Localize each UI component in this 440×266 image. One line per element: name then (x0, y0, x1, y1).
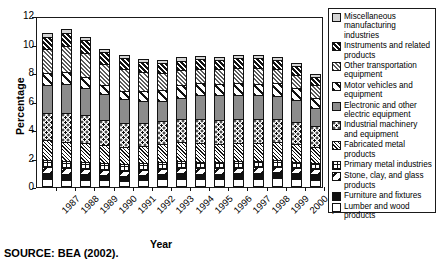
bar-segment (310, 85, 321, 98)
bar-1994[interactable] (176, 16, 187, 187)
bar-segment (195, 119, 206, 143)
bar-1989[interactable] (80, 16, 91, 187)
bar-segment (310, 108, 321, 127)
bar-segment (291, 100, 302, 123)
bar-segment (42, 160, 53, 168)
legend-item[interactable]: Lumber and wood products (332, 202, 433, 221)
bar-segment (61, 33, 72, 47)
bar-segment (80, 37, 91, 41)
legend-item-label: Industrial machinery and equipment (344, 120, 433, 139)
bar-1987[interactable] (42, 16, 53, 187)
legend-item[interactable]: Furniture and fixtures (332, 191, 433, 201)
bar-segment (119, 181, 130, 187)
x-tick-mark (152, 187, 153, 191)
x-tick-label: 2000 (307, 193, 330, 216)
legend-item[interactable]: Industrial machinery and equipment (332, 120, 433, 139)
legend-swatch-icon (332, 102, 341, 111)
bar-segment (80, 162, 91, 169)
bar-segment (157, 162, 168, 169)
bar-segment (99, 94, 110, 120)
bar-segment (157, 73, 168, 90)
bar-segment (195, 174, 206, 180)
bar-1988[interactable] (61, 16, 72, 187)
bar-1998[interactable] (253, 16, 264, 187)
legend-item[interactable]: Instruments and related products (332, 41, 433, 60)
y-tick-mark (32, 160, 36, 161)
bar-1997[interactable] (233, 16, 244, 187)
legend-swatch-icon (332, 62, 341, 71)
bar-segment (138, 91, 149, 101)
bar-2001[interactable] (310, 16, 321, 187)
x-tick-label: 1996 (231, 193, 254, 216)
y-tick-label: 0 (12, 182, 34, 192)
bar-segment (99, 49, 110, 52)
bar-segment (272, 142, 283, 160)
x-axis-label: Year (150, 238, 172, 250)
bar-segment (310, 174, 321, 179)
legend-item[interactable]: Primary metal industries (332, 160, 433, 170)
bar-segment (99, 52, 110, 64)
bar-segment (272, 96, 283, 120)
y-tick-mark (32, 188, 36, 189)
bar-segment (253, 55, 264, 58)
legend-swatch-icon (332, 203, 341, 212)
bar-1992[interactable] (138, 16, 149, 187)
bar-segment (138, 146, 149, 163)
legend-item[interactable]: Miscellaneous manufacturing industries (332, 12, 433, 40)
bar-segment (253, 173, 264, 179)
bar-1993[interactable] (157, 16, 168, 187)
legend-item[interactable]: Electronic and other electric equipment (332, 101, 433, 120)
bar-1990[interactable] (99, 16, 110, 187)
legend-item-label: Electronic and other electric equipment (344, 101, 433, 120)
legend-item[interactable]: Motor vehicles and equipment (332, 81, 433, 100)
bar-segment (291, 122, 302, 144)
legend-item[interactable]: Other transportation equipment (332, 61, 433, 80)
bar-1999[interactable] (272, 16, 283, 187)
bar-segment (233, 119, 244, 143)
bar-segment (310, 180, 321, 187)
bar-segment (310, 74, 321, 77)
bar-segment (157, 174, 168, 179)
bar-segment (61, 161, 72, 169)
bar-segment (119, 91, 130, 100)
bar-segment (61, 46, 72, 72)
x-tick-label: 1993 (174, 193, 197, 216)
bar-segment (272, 178, 283, 187)
legend-item-label: Stone, clay, and glass products (344, 171, 433, 190)
bar-segment (61, 72, 72, 84)
y-tick-mark (32, 103, 36, 104)
bar-segment (99, 120, 110, 146)
bar-segment (138, 170, 149, 175)
bar-segment (61, 113, 72, 142)
bar-segment (61, 29, 72, 33)
bar-segment (214, 57, 225, 60)
x-tick-label: 1991 (135, 193, 158, 216)
bar-1991[interactable] (119, 16, 130, 187)
x-tick-label: 1988 (78, 193, 101, 216)
x-tick-mark (56, 187, 57, 191)
x-tick-label: 1998 (269, 193, 292, 216)
bar-segment (195, 56, 206, 59)
bar-segment (176, 85, 187, 98)
bar-1995[interactable] (195, 16, 206, 187)
plot-area (36, 17, 323, 188)
bar-2000[interactable] (291, 16, 302, 187)
bar-segment (195, 95, 206, 120)
bar-segment (291, 66, 302, 75)
bar-segment (310, 163, 321, 169)
bar-segment (157, 63, 168, 73)
legend-item[interactable]: Stone, clay, and glass products (332, 171, 433, 190)
bar-segment (157, 169, 168, 174)
bar-segment (291, 144, 302, 161)
y-axis-tick-labels: 024681012 (8, 0, 34, 266)
bar-1996[interactable] (214, 16, 225, 187)
bar-segment (61, 168, 72, 174)
legend-item[interactable]: Fabricated metal products (332, 140, 433, 159)
bar-segment (272, 119, 283, 142)
bar-segment (253, 68, 264, 84)
bar-segment (195, 69, 206, 83)
x-tick-mark (133, 187, 134, 191)
legend-item-label: Instruments and related products (344, 41, 433, 60)
bar-segment (42, 33, 53, 37)
bar-segment (253, 58, 264, 68)
